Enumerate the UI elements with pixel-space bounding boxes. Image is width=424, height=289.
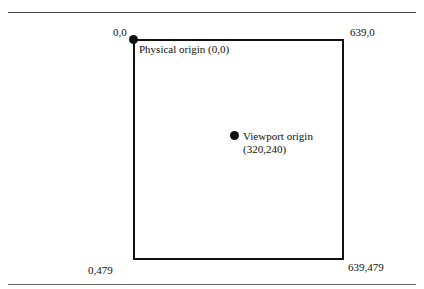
corner-label-top-right: 639,0 xyxy=(350,26,375,38)
physical-origin-dot xyxy=(129,35,138,44)
viewport-origin-coords: (320,240) xyxy=(243,143,286,155)
corner-label-bottom-right: 639,479 xyxy=(348,261,384,273)
top-rule xyxy=(8,12,416,13)
viewport-origin-dot xyxy=(230,131,239,140)
physical-origin-label: Physical origin (0,0) xyxy=(139,43,229,55)
corner-label-bottom-left: 0,479 xyxy=(88,264,113,276)
screen-rectangle xyxy=(133,39,344,260)
corner-label-top-left: 0,0 xyxy=(113,26,127,38)
bottom-rule xyxy=(8,284,416,285)
viewport-origin-label: Viewport origin xyxy=(243,130,313,142)
